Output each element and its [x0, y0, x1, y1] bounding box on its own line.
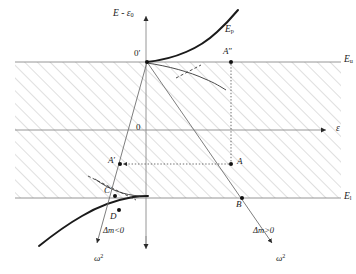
x-axis-label-text: ε: [336, 123, 340, 133]
positive-mass-branch-label: Δm>0: [253, 226, 274, 235]
Ep-curve-label: Ep: [225, 25, 234, 35]
point-label-A-double-prime-mark: ″: [229, 46, 233, 56]
origin-label-text: 0: [136, 122, 141, 132]
y-axis-label-text: E - ε: [113, 8, 130, 18]
x-axis-label: ε: [336, 124, 340, 134]
omega-squared-right-exp: 2: [282, 253, 285, 259]
positive-mass-branch-label-text: Δm>0: [253, 225, 274, 235]
band-diagram-figure: E - ε0 ε 0 0′ Eu El Ep A″ A A′ B C D Δm<…: [0, 0, 356, 274]
point-marker-A-double-prime: [229, 60, 233, 64]
point-marker-D: [117, 208, 121, 212]
point-label-D-text: D: [110, 211, 117, 221]
shifted-origin-label-text: 0′: [134, 48, 140, 58]
point-marker-A: [229, 162, 233, 166]
point-label-B-text: B: [236, 199, 242, 209]
shifted-origin-label: 0′: [134, 49, 140, 58]
point-label-A-text: A: [237, 156, 243, 166]
point-label-C: C: [104, 186, 110, 195]
point-label-A-prime-mark: ′: [114, 155, 116, 165]
Ep-curve-label-sub: p: [231, 27, 234, 34]
point-label-B: B: [236, 200, 242, 209]
point-marker-C: [113, 194, 117, 198]
point-marker-O-prime: [145, 60, 149, 64]
point-label-C-text: C: [104, 185, 110, 195]
point-label-D: D: [110, 212, 117, 221]
point-label-A-prime: A′: [108, 156, 115, 165]
omega-squared-left-exp: 2: [100, 253, 103, 259]
upper-band-edge-label: Eu: [344, 55, 353, 65]
point-marker-A-prime: [118, 162, 122, 166]
omega-squared-right-label: ω2: [276, 253, 285, 263]
omega-squared-left-label: ω2: [94, 253, 103, 263]
upper-band-edge-label-sub: u: [350, 57, 353, 64]
lower-band-edge-label-sub: l: [350, 194, 352, 201]
y-axis-label: E - ε0: [113, 9, 134, 19]
lower-branch-curve-path: [39, 196, 148, 246]
point-label-A: A: [237, 157, 243, 166]
lower-band-edge-label: El: [344, 192, 352, 202]
origin-label: 0: [136, 123, 141, 132]
negative-mass-branch-label: Δm<0: [103, 226, 124, 235]
figure-canvas: [0, 0, 356, 274]
negative-mass-branch-label-text: Δm<0: [103, 225, 124, 235]
y-axis-label-sub: 0: [130, 11, 133, 18]
point-label-A-double-prime: A″: [223, 47, 232, 56]
